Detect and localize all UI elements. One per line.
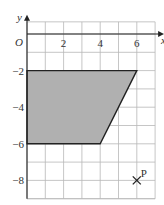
diagram-canvas: x y O 246 −2−4−6−8 P [0,0,164,205]
y-axis-arrow-icon [24,15,30,21]
y-tick-label: −2 [12,65,24,77]
y-tick-label: −6 [12,138,24,150]
x-tick-label: 6 [134,37,140,49]
y-tick-labels: −2−4−6−8 [12,65,24,187]
origin-label: O [15,36,23,48]
y-tick-label: −8 [12,174,24,186]
x-tick-labels: 246 [61,37,140,49]
x-tick-label: 2 [61,37,67,49]
y-axis-label: y [16,11,22,23]
x-axis-label: x [160,34,164,46]
x-tick-label: 4 [97,37,103,49]
y-tick-label: −4 [12,101,24,113]
coordinate-diagram: x y O 246 −2−4−6−8 P [0,0,164,205]
point-p-label: P [141,167,147,179]
